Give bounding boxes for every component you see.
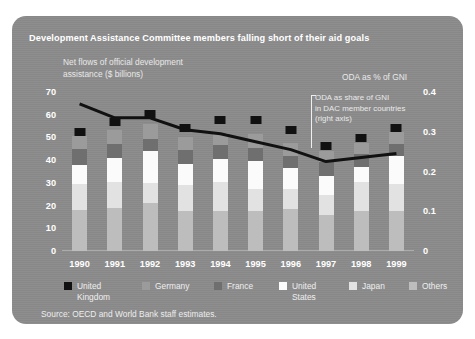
y-tick-left: 0	[51, 246, 56, 256]
marker-united-kingdom	[250, 116, 261, 124]
y-tick-right: 0.4	[423, 87, 436, 97]
marker-united-kingdom	[285, 126, 296, 134]
legend-swatch-icon	[409, 282, 417, 290]
left-axis-note: Net flows of official development assist…	[63, 57, 183, 80]
right-axis-note: ODA as % of GNI	[342, 72, 407, 84]
y-tick-right: 0.1	[423, 206, 436, 216]
marker-united-kingdom	[74, 128, 85, 136]
x-tick: 1993	[175, 259, 195, 269]
y-tick-left: 10	[46, 223, 56, 233]
x-tick: 1999	[386, 259, 406, 269]
marker-united-kingdom	[391, 124, 402, 132]
legend-swatch-icon	[142, 282, 150, 290]
y-tick-left: 60	[46, 110, 56, 120]
x-tick: 1998	[351, 259, 371, 269]
legend-label: United States	[292, 281, 316, 302]
oda-share-line	[80, 104, 397, 162]
legend-item-france[interactable]: France	[214, 281, 253, 292]
legend-item-united-kingdom[interactable]: United Kingdom	[64, 281, 110, 302]
marker-united-kingdom	[215, 116, 226, 124]
x-tick: 1996	[281, 259, 301, 269]
y-tick-left: 50	[46, 132, 56, 142]
x-tick: 1991	[105, 259, 125, 269]
legend-label: Others	[422, 281, 447, 292]
line-series	[62, 92, 414, 251]
y-tick-left: 70	[46, 87, 56, 97]
y-tick-right: 0.3	[423, 127, 436, 137]
x-tick: 1994	[210, 259, 230, 269]
chart-panel: Development Assistance Committee members…	[12, 16, 463, 324]
y-tick-left: 20	[46, 201, 56, 211]
legend-swatch-icon	[214, 282, 222, 290]
plot-area: 010203040506070 00.10.20.30.4 1990199119…	[62, 92, 414, 251]
x-tick: 1990	[69, 259, 89, 269]
marker-united-kingdom	[145, 110, 156, 118]
legend-label: Japan	[362, 281, 385, 292]
legend-item-japan[interactable]: Japan	[349, 281, 385, 292]
legend-swatch-icon	[349, 282, 357, 290]
y-tick-left: 30	[46, 178, 56, 188]
source-note: Source: OECD and World Bank staff estima…	[41, 309, 217, 319]
legend-label: France	[227, 281, 253, 292]
legend-label: United Kingdom	[77, 281, 110, 302]
marker-united-kingdom	[109, 118, 120, 126]
marker-united-kingdom	[321, 142, 332, 150]
y-tick-right: 0.2	[423, 167, 436, 177]
legend-item-germany[interactable]: Germany	[142, 281, 189, 292]
marker-united-kingdom	[180, 124, 191, 132]
legend-swatch-icon	[64, 282, 72, 290]
x-tick: 1995	[245, 259, 265, 269]
y-tick-left: 40	[46, 155, 56, 165]
y-tick-right: 0	[423, 246, 428, 256]
x-tick: 1992	[140, 259, 160, 269]
legend-item-others[interactable]: Others	[409, 281, 447, 292]
x-tick: 1997	[316, 259, 336, 269]
chart-title: Development Assistance Committee members…	[29, 33, 369, 43]
legend-item-united-states[interactable]: United States	[279, 281, 316, 302]
legend-swatch-icon	[279, 282, 287, 290]
marker-united-kingdom	[356, 134, 367, 142]
legend-label: Germany	[155, 281, 189, 292]
screenshot-root: Development Assistance Committee members…	[0, 0, 475, 339]
